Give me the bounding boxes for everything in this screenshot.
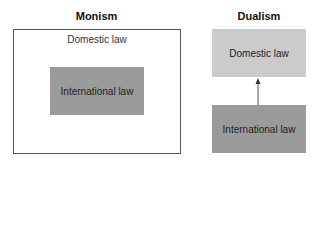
- dualism-international-law-label: International law: [223, 124, 296, 135]
- dualism-international-law-box: International law: [212, 105, 306, 153]
